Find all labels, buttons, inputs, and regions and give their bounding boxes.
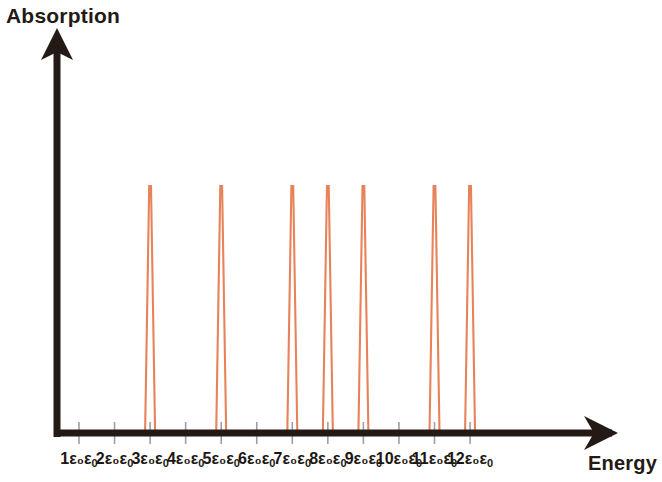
absorption-peak — [323, 186, 333, 433]
x-axis-label-2: 2ε₀ε0 — [96, 450, 133, 468]
absorption-peaks — [145, 186, 475, 433]
absorption-peak — [145, 186, 155, 433]
absorption-spectrum-figure: Absorption Energy 1ε₀ε02ε₀ε03ε₀ε04ε₀ε05ε… — [0, 0, 662, 482]
absorption-peak — [358, 186, 368, 433]
spectrum-plot — [0, 0, 662, 482]
x-axis-label-1: 1ε₀ε0 — [60, 450, 97, 468]
x-axis-label-5: 5ε₀ε0 — [202, 450, 239, 468]
x-axis-label-3: 3ε₀ε0 — [131, 450, 168, 468]
x-axis-label-7: 7ε₀ε0 — [274, 450, 311, 468]
x-axis-label-4: 4ε₀ε0 — [167, 450, 204, 468]
x-axis-title: Energy — [588, 452, 657, 475]
absorption-peak — [465, 186, 475, 433]
y-axis-title: Absorption — [6, 4, 120, 28]
x-axis-label-12: 12ε₀ε0 — [447, 450, 493, 468]
absorption-peak — [287, 186, 297, 433]
x-axis-label-6: 6ε₀ε0 — [238, 450, 275, 468]
absorption-peak — [430, 186, 440, 433]
absorption-peak — [216, 186, 226, 433]
x-axis-label-8: 8ε₀ε0 — [309, 450, 346, 468]
